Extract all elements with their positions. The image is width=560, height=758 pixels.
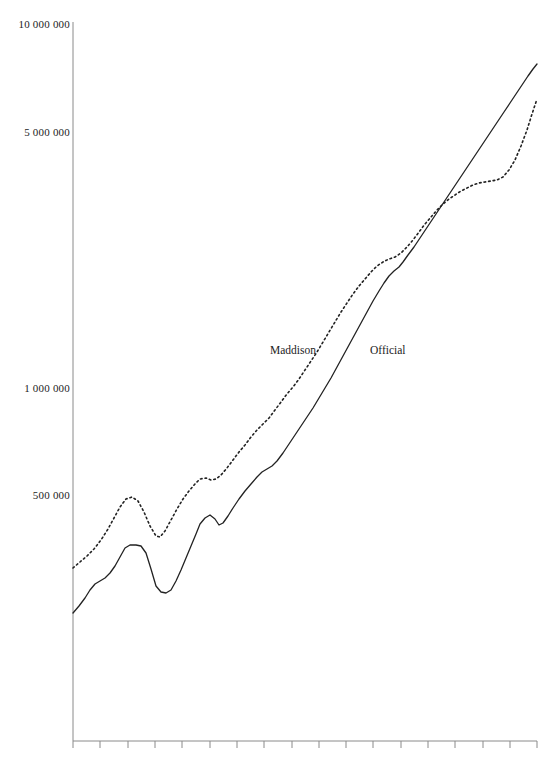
chart-plot-area <box>0 0 560 758</box>
y-tick-label-5000000: 5 000 000 <box>24 126 70 138</box>
series-annotation-official: Official <box>370 344 406 356</box>
series-line-maddison <box>73 99 537 568</box>
series-annotation-maddison: Maddison <box>270 344 316 356</box>
series-group <box>73 64 537 613</box>
x-axis-ticks <box>73 741 537 748</box>
series-line-official <box>73 64 537 613</box>
axis-group <box>73 22 537 748</box>
chart-container: 10 000 000 5 000 000 1 000 000 500 000 M… <box>0 0 560 758</box>
y-tick-label-1000000: 1 000 000 <box>24 382 70 394</box>
y-tick-label-500000: 500 000 <box>33 489 70 501</box>
y-tick-label-10000000: 10 000 000 <box>19 18 71 30</box>
